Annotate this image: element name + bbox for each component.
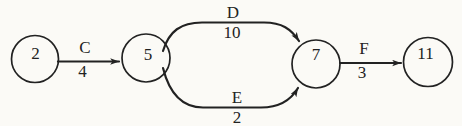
edge-E-name-label: E (232, 88, 242, 107)
network-diagram: 2 5 7 11 C 4 D 10 E 2 F 3 (0, 0, 462, 125)
edge-C-duration-label: 4 (78, 62, 87, 81)
edge-E-duration-label: 2 (233, 108, 242, 126)
node-2-label: 2 (31, 44, 40, 63)
node-11-label: 11 (417, 44, 433, 63)
edge-E-arrow (163, 68, 298, 108)
node-7-label: 7 (312, 45, 321, 64)
edge-F-name-label: F (359, 39, 368, 58)
edge-D-name-label: D (227, 3, 239, 22)
network-diagram-canvas: 2 5 7 11 C 4 D 10 E 2 F 3 (0, 0, 462, 125)
edge-C-name-label: C (79, 38, 90, 57)
edge-F-duration-label: 3 (358, 63, 367, 82)
node-5-label: 5 (144, 45, 153, 64)
edge-D-duration-label: 10 (224, 23, 241, 42)
